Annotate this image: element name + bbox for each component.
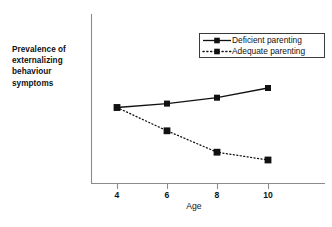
data-point-marker: [265, 85, 271, 91]
chart-container: Prevalence of externalizing behaviour sy…: [0, 0, 332, 227]
series-adequate-parenting: [114, 104, 272, 163]
series-line-deficient: [117, 88, 268, 108]
legend-entry-adequate-parenting: Adequate parenting: [200, 46, 324, 58]
legend-swatch-solid-line-icon: [202, 35, 232, 46]
x-tick-label-3: 10: [256, 190, 280, 200]
x-axis-title: Age: [0, 201, 332, 211]
data-point-marker: [114, 105, 120, 111]
data-point-marker: [164, 101, 170, 107]
legend-label-adequate-parenting: Adequate parenting: [232, 46, 305, 57]
x-tick-marks: [118, 184, 269, 190]
legend: Deficient parenting Adequate parenting: [199, 33, 325, 58]
series-line-adequate: [117, 108, 268, 161]
data-point-marker: [265, 157, 272, 164]
legend-label-deficient-parenting: Deficient parenting: [232, 35, 302, 46]
data-point-marker: [214, 149, 221, 156]
data-point-marker: [164, 127, 171, 134]
x-tick-label-0: 4: [105, 190, 129, 200]
x-tick-label-2: 8: [205, 190, 229, 200]
x-tick-label-1: 6: [155, 190, 179, 200]
data-point-marker: [214, 95, 220, 101]
series-deficient-parenting: [114, 85, 271, 111]
legend-swatch-dotted-line-icon: [202, 46, 232, 57]
